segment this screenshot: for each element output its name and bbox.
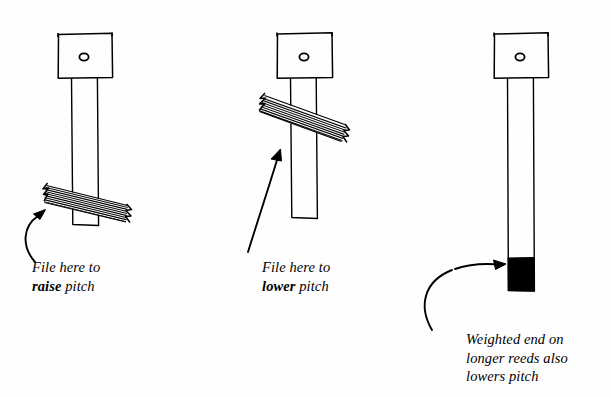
- reed-tongue-middle: [291, 78, 318, 219]
- caption-raise-line2-rest: pitch: [62, 278, 95, 294]
- caption-raise-line2: raise pitch: [32, 277, 100, 296]
- reed-plate-hole-right: [515, 53, 524, 60]
- caption-lower-pitch: File here to lower pitch: [262, 258, 330, 295]
- reed-plate-hole-left: [79, 53, 88, 60]
- caption-weighted-line2: longer reeds also: [466, 349, 568, 368]
- caption-weighted-line1: Weighted end on: [466, 330, 568, 349]
- caption-weighted-end: Weighted end on longer reeds also lowers…: [466, 330, 568, 386]
- caption-raise-line1: File here to: [32, 258, 100, 277]
- reed-middle: [248, 32, 350, 252]
- curved-arrow-to-file-band-left: [26, 210, 46, 263]
- caption-lower-line2: lower pitch: [262, 277, 330, 296]
- reed-right: [425, 32, 549, 330]
- reed-plate-right: [494, 33, 548, 79]
- curved-arrow-to-weight-right: [425, 260, 506, 330]
- caption-raise-pitch: File here to raise pitch: [32, 258, 100, 295]
- caption-weighted-line3: lowers pitch: [466, 367, 568, 386]
- straight-arrow-to-file-band-middle: [248, 149, 282, 252]
- caption-lower-emphasis: lower: [262, 278, 296, 294]
- reed-plate-hole-middle: [299, 53, 308, 60]
- caption-raise-emphasis: raise: [32, 278, 62, 294]
- file-band-middle: [258, 93, 350, 148]
- reed-left: [26, 33, 132, 263]
- caption-lower-line1: File here to: [262, 258, 330, 277]
- reed-weight-block: [508, 258, 534, 292]
- file-band-left: [42, 183, 132, 225]
- reed-plate-left: [58, 33, 112, 78]
- reed-tuning-diagram: File here to raise pitch File here to lo…: [0, 0, 611, 397]
- caption-lower-line2-rest: pitch: [296, 278, 329, 294]
- reed-plate-middle: [277, 33, 332, 78]
